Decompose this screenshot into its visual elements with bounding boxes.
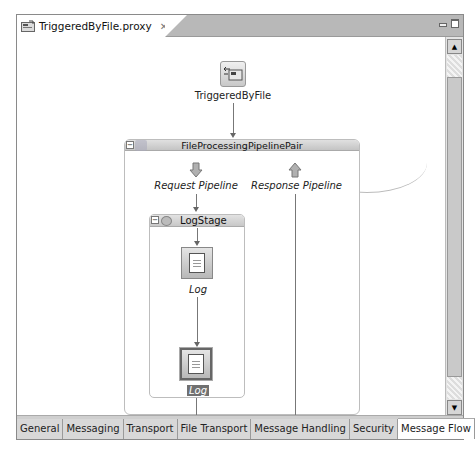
log-action-1-label: Log (178, 284, 218, 295)
log-action-icon (180, 348, 212, 380)
log-action-1[interactable] (181, 247, 213, 279)
stage-icon (161, 216, 172, 226)
connector-line (295, 194, 296, 415)
proxy-service-label: TriggeredByFile (187, 90, 279, 101)
close-icon[interactable]: ✕ (160, 21, 168, 32)
arrow-down-icon (194, 342, 200, 347)
tab-message-handling[interactable]: Message Handling (251, 419, 350, 439)
arrow-up-icon (288, 162, 302, 180)
proxy-service-node[interactable] (220, 61, 246, 87)
pipeline-pair-node[interactable]: − FileProcessingPipelinePair Request Pip… (124, 139, 360, 415)
tab-file-transport[interactable]: File Transport (178, 419, 252, 439)
log-action-2[interactable] (180, 348, 212, 380)
document-icon (189, 253, 205, 273)
connector-line (196, 194, 197, 208)
connector-line (233, 103, 234, 133)
arrow-down-icon (189, 162, 203, 180)
log-stage-header[interactable]: − LogStage (150, 215, 244, 227)
minimize-button[interactable] (439, 23, 447, 27)
pipeline-pair-label: FileProcessingPipelinePair (181, 140, 302, 151)
maximize-button[interactable] (451, 19, 459, 28)
vertical-scrollbar[interactable]: ▲ ▼ (445, 37, 463, 417)
editor-tab-title: TriggeredByFile.proxy (39, 20, 152, 32)
tab-transport[interactable]: Transport (124, 419, 178, 439)
pipeline-pair-header[interactable]: − FileProcessingPipelinePair (125, 140, 359, 151)
scroll-track[interactable] (447, 55, 462, 77)
editor-tab-triggeredbyfile[interactable]: TriggeredByFile.proxy ✕ (17, 15, 165, 37)
scroll-up-button[interactable]: ▲ (447, 39, 462, 54)
editor-page-tabs: General Messaging Transport File Transpo… (17, 415, 463, 439)
document-icon (188, 354, 204, 374)
proxy-service-icon (220, 61, 246, 87)
tab-message-flow[interactable]: Message Flow (398, 418, 475, 439)
collapse-button[interactable]: − (126, 141, 134, 149)
scroll-down-button[interactable]: ▼ (447, 400, 462, 415)
proxy-service-icon (21, 20, 35, 32)
log-action-2-label: Log (178, 385, 218, 396)
log-stage-label: LogStage (180, 215, 227, 226)
proxy-editor: TriggeredByFile.proxy ✕ TriggeredByFile … (16, 14, 464, 440)
arrow-down-icon (230, 133, 236, 138)
message-flow-canvas[interactable]: TriggeredByFile − FileProcessingPipeline… (17, 37, 445, 417)
response-pipeline-label[interactable]: Response Pipeline (251, 180, 341, 191)
tab-general[interactable]: General (17, 419, 63, 439)
collapse-button[interactable]: − (151, 216, 159, 224)
scroll-track[interactable] (447, 377, 462, 399)
log-action-icon (181, 247, 213, 279)
connector-line (197, 297, 198, 343)
tab-messaging[interactable]: Messaging (63, 419, 123, 439)
arrow-down-icon (193, 207, 199, 212)
connector-line (197, 228, 198, 242)
request-pipeline-label[interactable]: Request Pipeline (153, 180, 239, 191)
connector-line (196, 398, 197, 415)
tab-security[interactable]: Security (350, 419, 398, 439)
scroll-thumb[interactable] (447, 77, 462, 377)
arrow-down-icon (194, 241, 200, 246)
pipeline-pair-icon (135, 140, 147, 151)
log-stage-node[interactable]: − LogStage Log Log (149, 214, 245, 398)
editor-tab-bar: TriggeredByFile.proxy ✕ (17, 15, 463, 37)
